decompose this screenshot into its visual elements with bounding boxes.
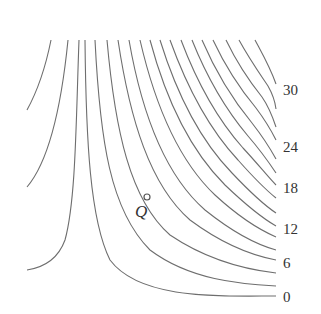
contour-line-1 [95, 40, 276, 286]
contour-line-15 [255, 40, 276, 84]
contour-line-5 [140, 40, 276, 237]
level-label-6: 6 [283, 256, 291, 271]
right-contour-group [85, 40, 276, 296]
contour-line-12 [213, 40, 276, 140]
point-q-label: Q [135, 203, 147, 220]
contour-line-9 [181, 40, 276, 185]
contour-line-4 [129, 40, 276, 250]
contour-line-14 [239, 40, 276, 109]
contour-line-7 [160, 40, 276, 213]
contour-line-13 [226, 40, 276, 127]
level-label-30: 30 [283, 83, 298, 98]
contour-diagram [0, 0, 321, 314]
contour-line-0 [85, 40, 276, 296]
contour-line-8 [170, 40, 276, 198]
level-label-24: 24 [283, 140, 298, 155]
left-contour-group [27, 40, 79, 270]
contour-line-10 [192, 40, 276, 173]
level-label-12: 12 [283, 222, 298, 237]
point-q-marker [144, 194, 150, 200]
left-contour-line-0 [27, 40, 51, 110]
level-label-0: 0 [283, 290, 291, 305]
level-label-18: 18 [283, 181, 298, 196]
left-contour-line-1 [27, 40, 68, 187]
left-contour-line-2 [27, 40, 79, 270]
